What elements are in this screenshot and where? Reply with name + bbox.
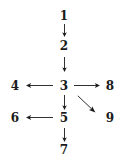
node-5: 5: [56, 111, 72, 125]
edge-arrow-3-to-8: [74, 81, 100, 90]
edge-arrow-5-to-7: [60, 128, 69, 142]
edge-arrow-3-to-5: [60, 95, 69, 110]
graph-diagram: 1 2 3 4 5 6 7 8 9: [0, 0, 125, 165]
node-7: 7: [56, 143, 72, 157]
edge-arrow-2-to-3: [60, 57, 69, 72]
node-9: 9: [102, 111, 118, 125]
node-4: 4: [7, 79, 23, 93]
edge-arrow-3-to-4: [26, 81, 53, 90]
node-6: 6: [7, 111, 23, 125]
node-2: 2: [56, 39, 72, 53]
edge-arrow-3-to-9: [77, 95, 97, 114]
node-3: 3: [56, 79, 72, 93]
node-1: 1: [56, 9, 72, 23]
node-8: 8: [102, 79, 118, 93]
edge-arrow-5-to-6: [26, 113, 53, 122]
edge-arrow-1-to-2: [60, 24, 69, 37]
